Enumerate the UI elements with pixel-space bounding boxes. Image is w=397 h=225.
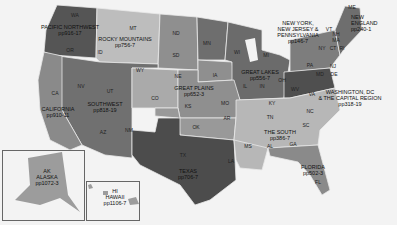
label-southwest: SOUTHWESTpp818-19 [87,101,122,113]
label-capital-region: WASHINGTON, DC& THE CAPITAL REGIONpp318-… [318,89,381,107]
label-rocky-mountains: ROCKY MOUNTAINSpp756-7 [98,36,152,48]
state-label: KY [269,100,276,106]
state-label: MS [244,143,252,149]
state-label: MN [203,40,211,46]
state-label: ND [172,30,179,36]
state-label: GA [289,141,296,147]
state-label: CO [151,95,159,101]
state-label: IA [213,72,218,78]
label-alaska: AKALASKApp1072-3 [35,168,58,186]
state-label: RI [340,45,345,51]
state-label: KS [185,103,192,109]
state-label: NJ [330,63,336,69]
state-label: SC [303,122,310,128]
label-great-lakes: GREAT LAKESpp556-7 [241,69,279,81]
state-label: IL [243,83,247,89]
state-label: WY [136,67,144,73]
state-label: MO [221,100,229,106]
state-label: AR [224,115,231,121]
label-great-plains: GREAT PLAINSpp652-3 [174,85,214,97]
label-the-south: THE SOUTHpp386-7 [264,129,296,141]
state-label: MT [129,25,136,31]
state-label: UT [107,88,114,94]
state-label: LA [228,158,234,164]
label-hawaii: HIHAWAIIpp1106-7 [104,188,127,206]
label-texas: TEXASpp706-7 [178,168,198,180]
state-label: WI [234,49,240,55]
state-label: DE [331,71,338,77]
state-label: ID [98,49,103,55]
state-label: NM [125,127,133,133]
state-label: MD [316,71,324,77]
label-new-england: NEWENGLANDpp240-1 [351,14,378,32]
state-label: NE [175,73,182,79]
state-label: NY [319,45,326,51]
state-label: AL [267,143,273,149]
state-label: WV [291,86,299,92]
state-label: IN [260,83,265,89]
state-label: TN [267,114,274,120]
state-label: ME [348,4,356,10]
state-label: PA [307,62,313,68]
label-ny-nj-pa: NEW YORK,NEW JERSEY &PENNSYLVANIApp146-7 [277,20,318,44]
state-label: OR [66,47,74,53]
state-label: MI [263,52,269,58]
state-label: AZ [100,129,106,135]
state-label: VT [326,26,332,32]
state-label: OK [192,124,199,130]
state-label: WA [71,12,79,18]
state-label: MA [332,37,340,43]
state-label: CA [52,90,59,96]
state-label: SD [173,52,180,58]
state-label: FL [315,179,321,185]
state-label: OH [278,77,286,83]
label-florida: FLORIDApp502-3 [301,164,325,176]
state-label: VA [309,91,315,97]
state-label: TX [180,152,186,158]
state-label: NC [306,108,313,114]
state-label: CT [330,45,337,51]
label-california: CALIFORNIApp910-11 [41,106,74,118]
state-label: NV [78,83,85,89]
us-regions-map: PACIFIC NORTHWESTpp916-17 ROCKY MOUNTAIN… [0,0,397,225]
label-pacific-northwest: PACIFIC NORTHWESTpp916-17 [41,24,99,36]
